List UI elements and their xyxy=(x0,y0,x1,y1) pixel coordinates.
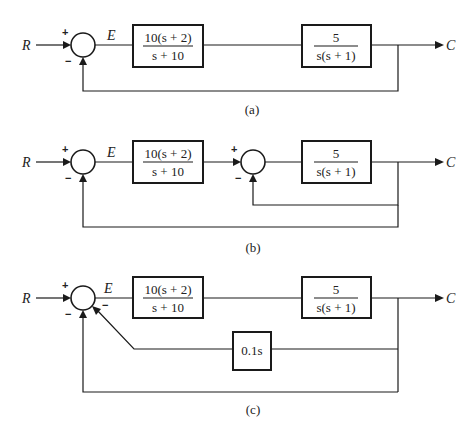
controller-denominator: s + 10 xyxy=(152,48,184,63)
signal-r-label: R xyxy=(21,291,31,306)
controller-numerator: 10(s + 2) xyxy=(144,146,191,161)
controller-denominator: s + 10 xyxy=(152,300,184,315)
minus-sign: − xyxy=(235,172,241,184)
controller-numerator: 10(s + 2) xyxy=(144,282,191,297)
plant-denominator: s(s + 1) xyxy=(316,164,355,179)
diagram-a: R + − E 10(s + 2) s + 10 5 s(s + 1) C (a… xyxy=(21,25,456,117)
plant-denominator: s(s + 1) xyxy=(316,48,355,63)
controller-denominator: s + 10 xyxy=(152,164,184,179)
plant-numerator: 5 xyxy=(333,146,340,161)
minus-sign: − xyxy=(65,308,71,320)
plus-sign: + xyxy=(62,279,68,291)
summing-junction-inner xyxy=(241,150,265,174)
signal-r-label: R xyxy=(21,38,31,53)
arrow-head-icon xyxy=(435,294,444,302)
plus-sign: + xyxy=(62,143,68,155)
minus-sign-rate: − xyxy=(102,299,108,311)
signal-c-label: C xyxy=(446,38,456,53)
summing-junction-outer xyxy=(71,150,95,174)
plant-denominator: s(s + 1) xyxy=(316,300,355,315)
minus-sign: − xyxy=(65,55,71,67)
plus-sign: + xyxy=(62,26,68,38)
arrow-head-icon xyxy=(249,174,257,182)
outer-feedback-path xyxy=(83,179,398,227)
controller-numerator: 10(s + 2) xyxy=(144,30,191,45)
plant-numerator: 5 xyxy=(333,30,340,45)
arrow-head-icon xyxy=(79,57,87,65)
arrow-head-icon xyxy=(233,158,241,166)
signal-e-label: E xyxy=(106,145,116,160)
diagram-b: R + − E 10(s + 2) s + 10 + − 5 s(s + 1) … xyxy=(21,141,456,255)
arrow-head-icon xyxy=(63,158,71,166)
summing-junction xyxy=(71,33,95,57)
block-diagrams: R + − E 10(s + 2) s + 10 5 s(s + 1) C (a… xyxy=(0,0,473,422)
minus-sign: − xyxy=(65,172,71,184)
arrow-head-icon xyxy=(435,158,444,166)
summing-junction xyxy=(71,286,95,310)
diagram-c: R + − − E 10(s + 2) s + 10 5 s(s + 1) C … xyxy=(21,277,456,417)
rate-feedback-label: 0.1s xyxy=(241,343,262,358)
arrow-head-icon xyxy=(79,174,87,182)
signal-e-label: E xyxy=(103,281,113,296)
signal-r-label: R xyxy=(21,155,31,170)
caption-c: (c) xyxy=(246,402,260,417)
arrow-head-icon xyxy=(435,41,444,49)
caption-b: (b) xyxy=(245,240,260,255)
arrow-head-icon xyxy=(63,294,71,302)
signal-e-label: E xyxy=(106,28,116,43)
plus-sign: + xyxy=(231,143,237,155)
signal-c-label: C xyxy=(446,155,456,170)
arrow-head-icon xyxy=(63,41,71,49)
arrow-head-icon xyxy=(79,310,87,318)
caption-a: (a) xyxy=(245,102,259,117)
signal-c-label: C xyxy=(446,291,456,306)
plant-numerator: 5 xyxy=(333,282,340,297)
